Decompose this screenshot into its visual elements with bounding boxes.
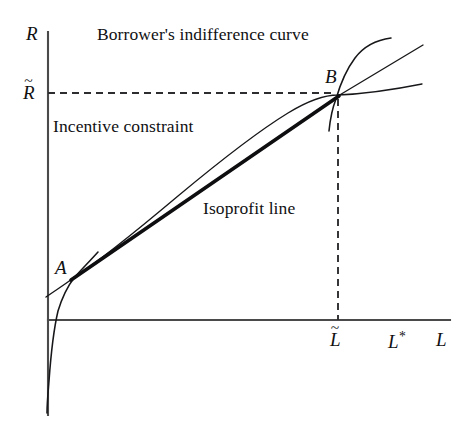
star-accent-icon: * <box>399 329 406 344</box>
l-star-base: L <box>388 331 399 352</box>
point-b-label: B <box>325 67 337 86</box>
figure-canvas: R ~R Borrower's indifference curve Incen… <box>0 0 473 431</box>
tilde-accent-icon: ~ <box>331 320 339 336</box>
x-axis-label-text: L <box>436 329 447 350</box>
point-a-label: A <box>55 258 67 277</box>
l-tilde-tick-label: ~L <box>330 330 341 349</box>
incentive-constraint-label: Incentive constraint <box>53 118 194 136</box>
isoprofit-line-label: Isoprofit line <box>203 200 295 218</box>
x-axis-label: L <box>436 330 447 349</box>
tilde-accent-icon: ~ <box>24 73 32 89</box>
y-axis-label: R <box>26 24 38 43</box>
l-star-tick-label: L* <box>388 330 406 351</box>
y-axis-label-text: R <box>26 23 38 44</box>
l-tilde-glyph-wrap: ~L <box>330 330 341 349</box>
r-tilde-glyph-wrap: ~R <box>23 83 35 102</box>
borrower-curve-label: Borrower's indifference curve <box>97 26 309 44</box>
r-tilde-tick-label: ~R <box>23 83 35 102</box>
isoprofit-line-extension <box>338 45 423 96</box>
